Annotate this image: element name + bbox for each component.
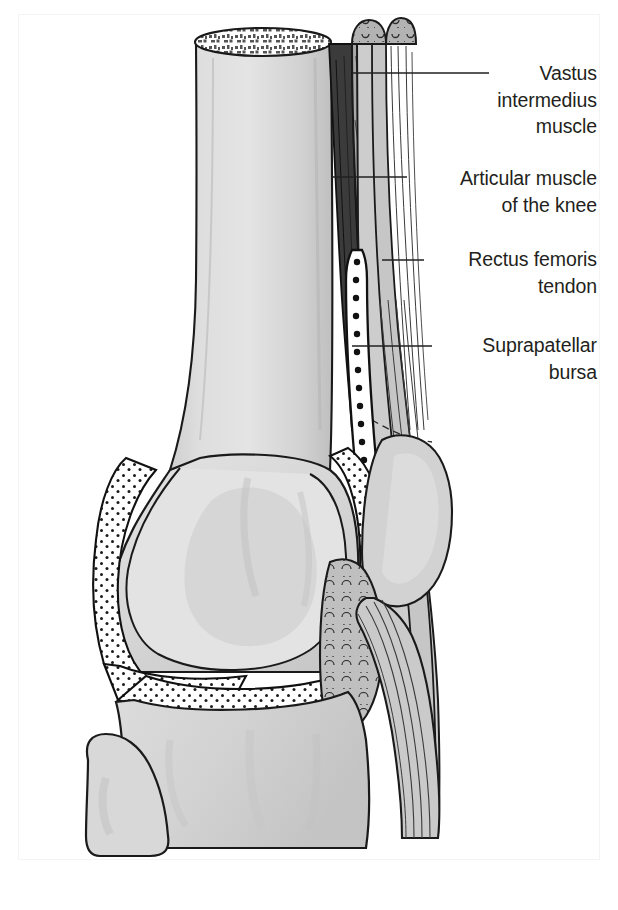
cancellous-bone <box>195 28 331 56</box>
label-articular-muscle-of-the-knee: Articular muscle of the knee <box>367 165 597 218</box>
label-rectus-femoris-tendon: Rectus femoris tendon <box>367 246 597 299</box>
femur-shaft-group <box>170 28 332 470</box>
patella <box>362 435 452 606</box>
label-suprapatellar-bursa: Suprapatellar bursa <box>367 332 597 385</box>
figure-page: Vastus intermedius muscle Articular musc… <box>0 0 618 910</box>
label-vastus-intermedius-muscle: Vastus intermedius muscle <box>367 60 597 140</box>
femur-shaft <box>170 44 332 470</box>
